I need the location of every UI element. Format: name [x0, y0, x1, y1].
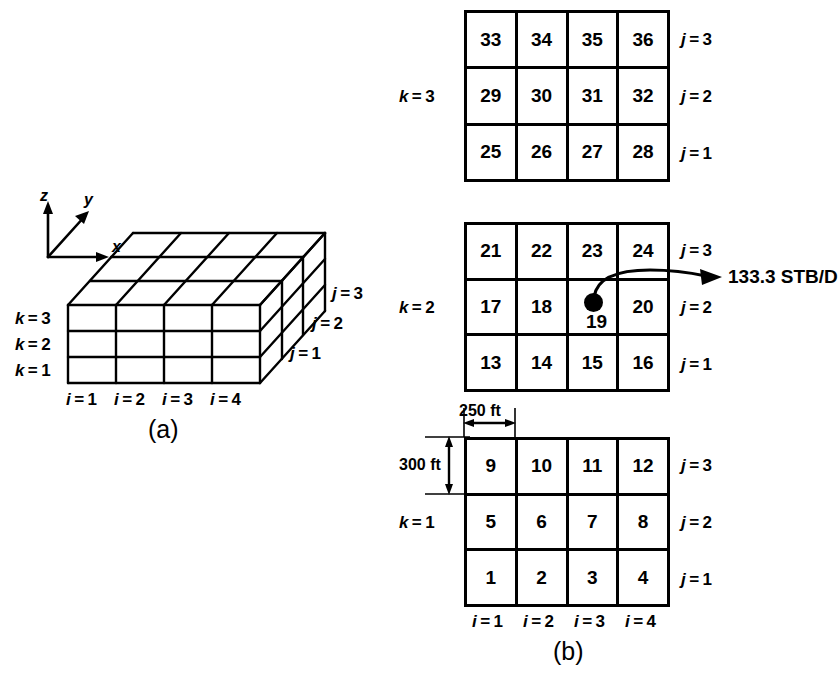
- panel-a-j-label-2: j = 2: [312, 315, 343, 332]
- block-top-face: [68, 233, 325, 305]
- layer-k1-k-label: k = 1: [399, 514, 435, 531]
- cell-11[interactable]: 11: [569, 440, 620, 496]
- panel-b-i-label-1: i = 1: [472, 613, 503, 630]
- cell-15[interactable]: 15: [569, 336, 620, 392]
- layer-k1-j-label-3: j = 3: [681, 457, 712, 474]
- layer-k3-k-label: k = 3: [399, 88, 435, 105]
- panel-a-i-label-3: i = 3: [162, 391, 193, 408]
- layer-k3-j-label-2: j = 2: [681, 88, 712, 105]
- layer-k2-j-label-2: j = 2: [681, 299, 712, 316]
- layer-k3-j-label-3: j = 3: [681, 31, 712, 48]
- cell-18[interactable]: 18: [518, 281, 569, 337]
- cell-3[interactable]: 3: [569, 551, 620, 607]
- cell-5[interactable]: 5: [467, 496, 518, 552]
- cell-32[interactable]: 32: [619, 69, 670, 125]
- dimension-label-dx: 250 ft: [459, 403, 501, 419]
- cell-33[interactable]: 33: [467, 13, 518, 69]
- axis-arrowheads: [43, 201, 109, 262]
- cell-20[interactable]: 20: [619, 281, 670, 337]
- layer-grid-k3: 33 34 35 36 29 30 31 32 25 26 27 28: [464, 10, 670, 182]
- cell-2[interactable]: 2: [518, 551, 569, 607]
- panel-a-j-label-3: j = 3: [332, 285, 363, 302]
- layer-k3-j-label-1: j = 1: [681, 145, 712, 162]
- cell-26[interactable]: 26: [518, 126, 569, 182]
- axis-label-y: y: [84, 192, 93, 208]
- layer-grid-k1: 9 10 11 12 5 6 7 8 1 2 3 4: [464, 437, 670, 607]
- cell-6[interactable]: 6: [518, 496, 569, 552]
- axis-lines: [48, 207, 103, 257]
- panel-a-caption: (a): [148, 417, 179, 442]
- cell-1[interactable]: 1: [467, 551, 518, 607]
- cell-4[interactable]: 4: [619, 551, 670, 607]
- cell-27[interactable]: 27: [569, 126, 620, 182]
- panel-b-caption: (b): [553, 639, 584, 664]
- panel-a-i-label-1: i = 1: [66, 391, 97, 408]
- cell-22[interactable]: 22: [518, 225, 569, 281]
- panel-a-i-label-4: i = 4: [210, 391, 241, 408]
- cell-30[interactable]: 30: [518, 69, 569, 125]
- cell-24[interactable]: 24: [619, 225, 670, 281]
- dimension-label-dy: 300 ft: [399, 457, 441, 473]
- layer-k1-j-label-1: j = 1: [681, 571, 712, 588]
- layer-k2-j-label-3: j = 3: [681, 242, 712, 259]
- cell-35[interactable]: 35: [569, 13, 620, 69]
- layer-k2-j-label-1: j = 1: [681, 356, 712, 373]
- axis-label-x: x: [112, 239, 121, 255]
- cell-7[interactable]: 7: [569, 496, 620, 552]
- well-block-number: 19: [586, 311, 607, 333]
- panel-a-k-label-1: k = 1: [15, 362, 51, 379]
- cell-13[interactable]: 13: [467, 336, 518, 392]
- cell-21[interactable]: 21: [467, 225, 518, 281]
- panel-b-i-label-4: i = 4: [625, 613, 656, 630]
- panel-a-k-label-2: k = 2: [15, 336, 51, 353]
- panel-b-i-label-3: i = 3: [574, 613, 605, 630]
- cell-12[interactable]: 12: [619, 440, 670, 496]
- cell-14[interactable]: 14: [518, 336, 569, 392]
- panel-a-i-label-2: i = 2: [114, 391, 145, 408]
- cell-25[interactable]: 25: [467, 126, 518, 182]
- axis-label-z: z: [40, 188, 48, 204]
- well-rate-label: 133.3 STB/D: [728, 267, 838, 286]
- cell-36[interactable]: 36: [619, 13, 670, 69]
- panel-a-j-label-1: j = 1: [290, 345, 321, 362]
- layer-k1-j-label-2: j = 2: [681, 514, 712, 531]
- cell-29[interactable]: 29: [467, 69, 518, 125]
- well-marker-icon[interactable]: [584, 293, 603, 312]
- cell-8[interactable]: 8: [619, 496, 670, 552]
- cell-10[interactable]: 10: [518, 440, 569, 496]
- cell-16[interactable]: 16: [619, 336, 670, 392]
- layer-grid-k2: 21 22 23 24 17 18 20 13 14 15 16: [464, 222, 670, 392]
- cell-34[interactable]: 34: [518, 13, 569, 69]
- panel-a-k-label-3: k = 3: [15, 310, 51, 327]
- cell-23[interactable]: 23: [569, 225, 620, 281]
- cell-28[interactable]: 28: [619, 126, 670, 182]
- cell-17[interactable]: 17: [467, 281, 518, 337]
- panel-b-i-label-2: i = 2: [523, 613, 554, 630]
- layer-k2-k-label: k = 2: [399, 299, 435, 316]
- block-front-face: [68, 305, 260, 383]
- cell-9[interactable]: 9: [467, 440, 518, 496]
- cell-31[interactable]: 31: [569, 69, 620, 125]
- figure-root: z y x k = 3 k = 2 k = 1 j = 3 j = 2 j = …: [0, 0, 838, 676]
